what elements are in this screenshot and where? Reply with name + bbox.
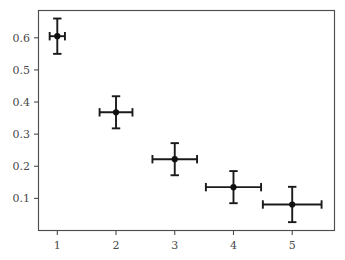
y-tick-label: 0.1 — [13, 192, 31, 205]
x-tick-label: 3 — [171, 239, 178, 252]
data-point-marker — [113, 109, 119, 115]
y-tick-label: 0.5 — [13, 64, 31, 77]
data-point-marker — [54, 33, 60, 39]
data-point-marker — [230, 184, 236, 190]
y-tick-label: 0.2 — [13, 160, 31, 173]
x-tick-label: 4 — [230, 239, 237, 252]
y-tick-label: 0.3 — [13, 128, 31, 141]
figure-canvas: 0.10.20.30.40.50.6 12345 — [0, 0, 345, 260]
y-tick-label: 0.4 — [13, 96, 31, 109]
x-tick-label: 1 — [54, 239, 61, 252]
y-tick-label: 0.6 — [13, 32, 31, 45]
scatter-plot-with-error-bars: 0.10.20.30.40.50.6 12345 — [0, 0, 345, 260]
x-tick-label: 5 — [289, 239, 296, 252]
plot-background — [0, 0, 345, 260]
data-point-marker — [289, 201, 295, 207]
x-tick-label: 2 — [113, 239, 120, 252]
data-point-marker — [172, 156, 178, 162]
